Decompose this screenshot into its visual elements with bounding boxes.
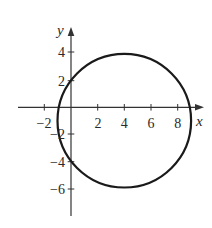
x-tick-label: 2 <box>95 116 102 131</box>
y-tick-label: 2 <box>58 74 65 89</box>
x-tick-label: 8 <box>174 116 181 131</box>
y-axis <box>68 27 75 216</box>
y-axis-label: y <box>55 22 64 38</box>
coordinate-plane-figure: −2 2 4 6 8 4 2 −2 −4 −6 x y <box>0 0 212 228</box>
y-tick-label: 4 <box>58 45 65 60</box>
x-axis <box>18 104 204 111</box>
y-tick-label: −4 <box>50 155 65 170</box>
plot-canvas: −2 2 4 6 8 4 2 −2 −4 −6 x y <box>0 0 212 228</box>
x-tick-label: 4 <box>121 116 128 131</box>
x-axis-arrow-icon <box>195 104 204 111</box>
x-tick-label: 6 <box>148 116 155 131</box>
y-tick-label: −2 <box>50 127 65 142</box>
x-axis-label: x <box>195 113 203 129</box>
y-tick-label: −6 <box>50 182 65 197</box>
y-axis-arrow-icon <box>68 27 75 36</box>
